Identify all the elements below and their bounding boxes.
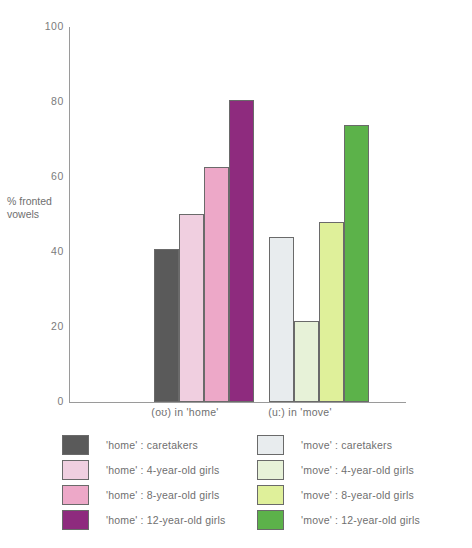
bars-container [69, 27, 406, 402]
legend-item: 'move' : caretakers [257, 432, 457, 457]
legend-item: 'home' : caretakers [62, 432, 262, 457]
legend-item: 'move' : 4-year-old girls [257, 457, 457, 482]
legend-column-home: 'home' : caretakers 'home' : 4-year-old … [62, 432, 262, 532]
legend-swatch-move-caretakers [257, 435, 284, 455]
bar-home-8-year-old-girls [204, 167, 229, 403]
bar-home-12-year-old-girls [229, 100, 254, 402]
bar-home-caretakers [154, 249, 179, 402]
legend-swatch-home-caretakers [62, 435, 89, 455]
legend-item: 'move' : 8-year-old girls [257, 482, 457, 507]
y-tick-40: 40 [22, 252, 64, 253]
legend-swatch-move-4-year-old-girls [257, 460, 284, 480]
legend-swatch-move-8-year-old-girls [257, 485, 284, 505]
bar-move-4-year-old-girls [294, 321, 319, 402]
figure: 100 80 60 40 20 0 % fronted vowels (oʊ) … [0, 0, 472, 548]
group-label-home: (oʊ) in 'home' [125, 406, 245, 418]
legend: 'home' : caretakers 'home' : 4-year-old … [62, 432, 462, 532]
legend-label: 'move' : 8-year-old girls [301, 489, 414, 501]
legend-swatch-home-12-year-old-girls [62, 510, 89, 530]
bar-home-4-year-old-girls [179, 214, 204, 402]
legend-swatch-home-4-year-old-girls [62, 460, 89, 480]
legend-swatch-move-12-year-old-girls [257, 510, 284, 530]
bar-move-12-year-old-girls [344, 125, 369, 403]
y-axis-title: % fronted vowels [7, 195, 69, 221]
legend-item: 'home' : 12-year-old girls [62, 507, 262, 532]
x-axis-line [69, 402, 406, 403]
legend-label: 'home' : caretakers [106, 439, 198, 451]
y-tick-80: 80 [22, 102, 64, 103]
y-tick-20: 20 [22, 327, 64, 328]
legend-item: 'home' : 4-year-old girls [62, 457, 262, 482]
legend-label: 'move' : 12-year-old girls [301, 514, 420, 526]
group-label-move: (u:) in 'move' [240, 406, 360, 418]
legend-swatch-home-8-year-old-girls [62, 485, 89, 505]
legend-label: 'home' : 8-year-old girls [106, 489, 219, 501]
legend-column-move: 'move' : caretakers 'move' : 4-year-old … [257, 432, 457, 532]
y-tick-0: 0 [22, 402, 64, 403]
legend-label: 'home' : 4-year-old girls [106, 464, 219, 476]
legend-label: 'move' : 4-year-old girls [301, 464, 414, 476]
y-tick-60: 60 [22, 177, 64, 178]
legend-item: 'home' : 8-year-old girls [62, 482, 262, 507]
legend-item: 'move' : 12-year-old girls [257, 507, 457, 532]
legend-label: 'home' : 12-year-old girls [106, 514, 226, 526]
legend-label: 'move' : caretakers [301, 439, 392, 451]
bar-move-caretakers [269, 237, 294, 402]
bar-move-8-year-old-girls [319, 222, 344, 402]
y-tick-100: 100 [22, 27, 64, 28]
